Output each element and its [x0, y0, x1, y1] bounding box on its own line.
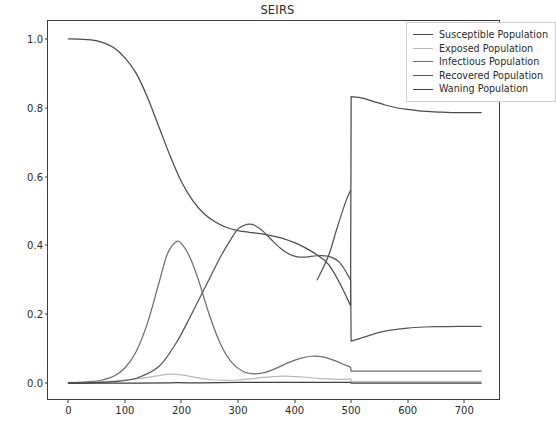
- series-line-4: [68, 224, 481, 383]
- y-tick-label: 0.6: [27, 171, 43, 182]
- y-tick-label: 0.8: [27, 102, 43, 113]
- series-line-3: [68, 241, 481, 383]
- legend-entry-label: Recovered Population: [439, 71, 543, 81]
- chart-title: SEIRS: [0, 3, 553, 17]
- y-tick-mark: [45, 38, 49, 39]
- legend-entry-label: Exposed Population: [439, 44, 533, 54]
- y-tick-mark: [45, 314, 49, 315]
- y-tick-label: 1.0: [27, 33, 43, 44]
- chart-title-text: SEIRS: [260, 3, 294, 17]
- x-tick-label: 300: [228, 405, 247, 416]
- x-tick-mark: [124, 399, 125, 403]
- legend-line-swatch: [413, 34, 433, 35]
- y-tick-label: 0.4: [27, 240, 43, 251]
- x-tick-mark: [407, 399, 408, 403]
- series-line-2: [68, 374, 481, 382]
- x-tick-mark: [464, 399, 465, 403]
- legend-line-swatch: [413, 89, 433, 90]
- x-tick-label: 200: [172, 405, 191, 416]
- x-tick-label: 700: [455, 405, 474, 416]
- x-tick-mark: [238, 399, 239, 403]
- legend-entry-label: Susceptible Population: [439, 30, 548, 40]
- x-tick-label: 100: [115, 405, 134, 416]
- legend-entry[interactable]: Waning Population: [413, 82, 548, 96]
- x-tick-label: 0: [65, 405, 71, 416]
- legend-line-swatch: [413, 75, 433, 76]
- x-tick-mark: [68, 399, 69, 403]
- y-tick-mark: [45, 245, 49, 246]
- x-tick-label: 500: [342, 405, 361, 416]
- y-tick-label: 0.2: [27, 309, 43, 320]
- legend-entry[interactable]: Infectious Population: [413, 55, 548, 69]
- x-tick-mark: [181, 399, 182, 403]
- legend-entry[interactable]: Recovered Population: [413, 69, 548, 83]
- legend-entry[interactable]: Susceptible Population: [413, 28, 548, 42]
- y-tick-mark: [45, 176, 49, 177]
- legend-entry[interactable]: Exposed Population: [413, 42, 548, 56]
- x-tick-label: 600: [398, 405, 417, 416]
- chart-legend: Susceptible PopulationExposed Population…: [406, 22, 556, 102]
- legend-line-swatch: [413, 48, 433, 49]
- series-line-5: [68, 382, 481, 383]
- y-tick-mark: [45, 383, 49, 384]
- series-line-recovered-surge: [317, 190, 350, 279]
- legend-entry-label: Waning Population: [439, 84, 528, 94]
- x-tick-label: 400: [285, 405, 304, 416]
- y-tick-mark: [45, 107, 49, 108]
- x-tick-mark: [294, 399, 295, 403]
- y-tick-label: 0.0: [27, 378, 43, 389]
- legend-line-swatch: [413, 61, 433, 62]
- legend-entry-label: Infectious Population: [439, 57, 539, 67]
- x-tick-mark: [351, 399, 352, 403]
